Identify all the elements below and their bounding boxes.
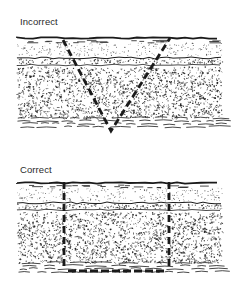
ground-surface-line bbox=[17, 182, 217, 183]
correct-panel: Correct bbox=[0, 145, 236, 291]
incorrect-soil-cross-section bbox=[0, 0, 236, 145]
soil-layers bbox=[16, 37, 231, 127]
ground-surface-line bbox=[17, 37, 217, 38]
soil-layers bbox=[17, 182, 230, 272]
incorrect-panel: Incorrect bbox=[0, 0, 236, 145]
correct-soil-cross-section bbox=[0, 145, 236, 291]
